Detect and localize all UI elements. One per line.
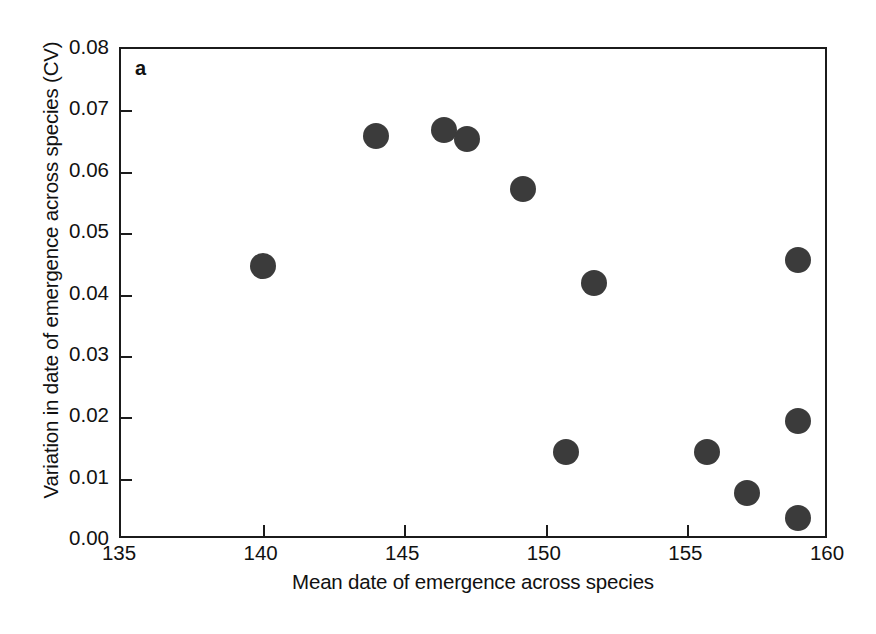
scatter-figure: Variation in date of emergence across sp… — [0, 0, 876, 634]
y-tick-mark — [121, 172, 132, 174]
data-point — [581, 270, 607, 296]
data-point — [510, 176, 536, 202]
y-tick-label: 0.07 — [39, 98, 109, 119]
plot-area — [121, 49, 825, 536]
data-point — [363, 123, 389, 149]
y-tick-label: 0.05 — [39, 221, 109, 242]
x-tick-mark — [546, 525, 548, 536]
y-tick-label: 0.06 — [39, 160, 109, 181]
y-tick-mark — [121, 417, 132, 419]
data-point — [250, 253, 276, 279]
y-tick-mark — [121, 479, 132, 481]
data-point — [734, 480, 760, 506]
y-tick-label: 0.03 — [39, 344, 109, 365]
data-point — [454, 126, 480, 152]
data-point — [553, 439, 579, 465]
y-tick-mark — [121, 295, 132, 297]
x-tick-label: 140 — [226, 543, 296, 564]
data-point — [785, 505, 811, 531]
x-axis-label: Mean date of emergence across species — [119, 570, 827, 594]
x-tick-label: 145 — [367, 543, 437, 564]
data-point — [694, 439, 720, 465]
data-point — [785, 247, 811, 273]
x-tick-label: 155 — [650, 543, 720, 564]
y-tick-label: 0.08 — [39, 37, 109, 58]
x-tick-label: 135 — [84, 543, 154, 564]
x-tick-mark — [404, 525, 406, 536]
data-point — [785, 408, 811, 434]
x-tick-label: 150 — [509, 543, 579, 564]
y-tick-label: 0.01 — [39, 467, 109, 488]
data-point — [431, 117, 457, 143]
x-tick-mark — [263, 525, 265, 536]
y-tick-mark — [121, 356, 132, 358]
y-tick-mark — [121, 233, 132, 235]
x-tick-label: 160 — [792, 543, 862, 564]
x-tick-mark — [687, 525, 689, 536]
y-tick-label: 0.04 — [39, 283, 109, 304]
y-tick-label: 0.02 — [39, 405, 109, 426]
y-tick-mark — [121, 110, 132, 112]
y-axis-label: Variation in date of emergence across sp… — [34, 0, 68, 540]
plot-frame: a — [119, 47, 827, 538]
